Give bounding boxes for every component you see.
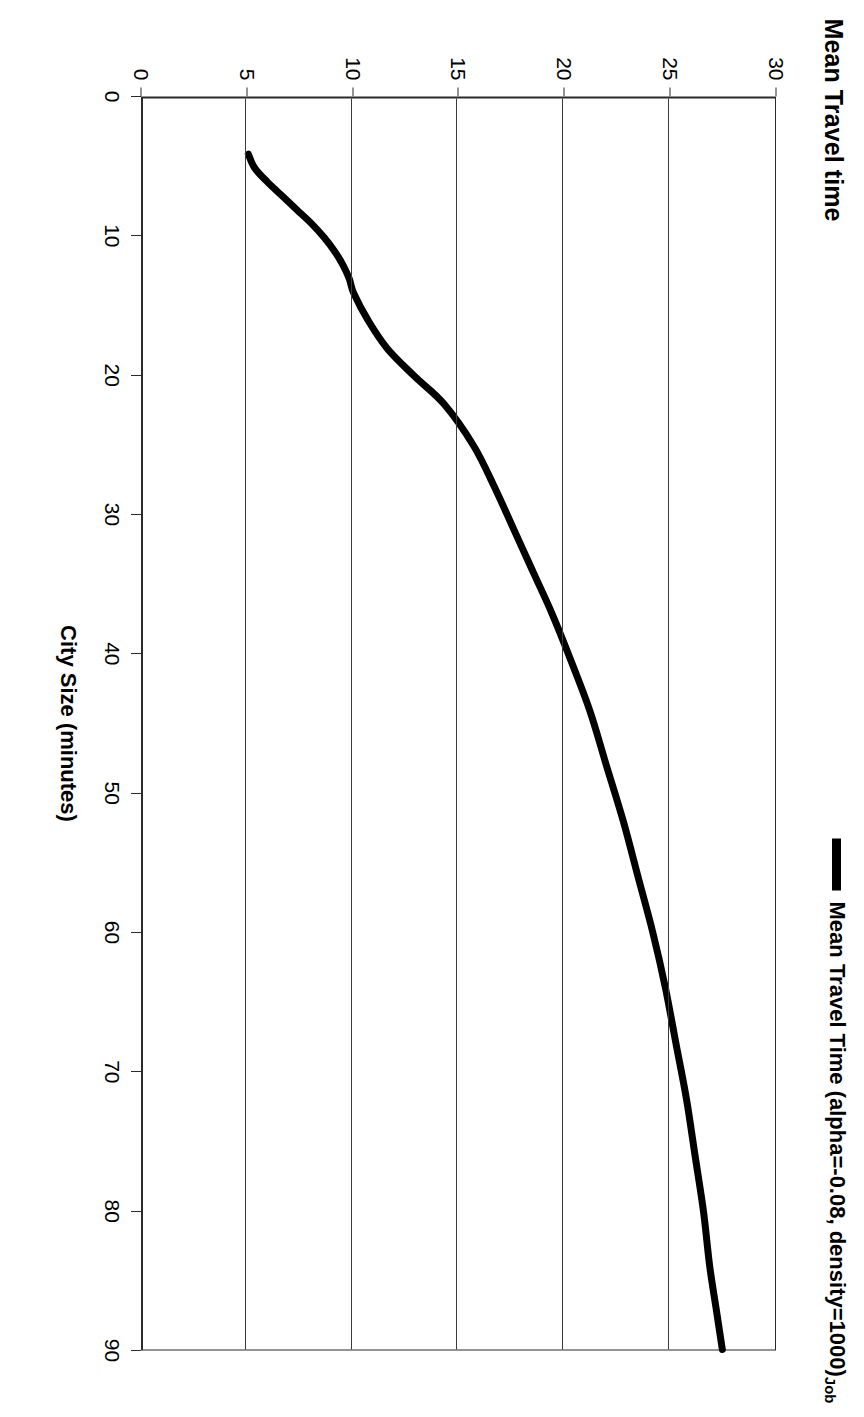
series-curve-layer	[143, 98, 775, 1349]
category-axis-tick-label: 70	[100, 1060, 124, 1083]
category-axis-tick-mark	[131, 374, 141, 375]
category-axis-tick-label: 90	[100, 1338, 124, 1361]
category-axis-tick-label: 30	[100, 502, 124, 525]
gridline	[351, 98, 352, 1349]
series-line-mean-travel-time	[248, 154, 722, 1349]
legend-line-swatch	[833, 838, 842, 890]
value-axis-tick-label: 20	[552, 57, 576, 80]
plot-area	[141, 96, 776, 1350]
value-axis-tick-label: 15	[447, 57, 471, 80]
value-axis-tick-mark	[564, 87, 565, 96]
value-axis-tick-mark	[458, 87, 459, 96]
category-axis-tick-mark	[131, 1071, 141, 1072]
value-axis-tick-label: 10	[341, 57, 365, 80]
category-axis: 0102030405060708090	[21, 96, 141, 1350]
category-axis-tick-mark	[131, 235, 141, 236]
legend-item-label: Mean Travel Time (alpha=-0.08, density=1…	[826, 901, 848, 1403]
gridline	[562, 98, 563, 1349]
value-axis-tick-label: 25	[658, 57, 682, 80]
category-axis-tick-mark	[131, 1350, 141, 1351]
value-axis-tick-mark	[141, 87, 142, 96]
value-axis-tick-mark	[670, 87, 671, 96]
category-axis-tick-label: 0	[100, 90, 124, 102]
value-axis-tick-label: 5	[235, 68, 259, 80]
legend-item-label-main: Mean Travel Time (alpha=-0.08, density=1…	[825, 901, 850, 1376]
category-axis-tick-label: 20	[100, 363, 124, 386]
category-axis-tick-mark	[131, 653, 141, 654]
category-axis-tick-label: 60	[100, 920, 124, 943]
value-axis-tick-mark	[776, 87, 777, 96]
category-axis-tick-mark	[131, 96, 141, 97]
category-axis-tick-mark	[131, 1210, 141, 1211]
category-axis-title: City Size (minutes)	[55, 96, 81, 1350]
category-axis-tick-label: 10	[100, 224, 124, 247]
value-axis-tick-label: 30	[764, 57, 788, 80]
value-axis: 051015202530	[141, 0, 776, 96]
category-axis-tick-mark	[131, 932, 141, 933]
value-axis-tick-mark	[352, 87, 353, 96]
chart-legend: Mean Travel Time (alpha=-0.08, density=1…	[826, 838, 848, 1403]
chart-stage: Mean Travel time Mean Travel Time (alpha…	[0, 0, 864, 1417]
category-axis-tick-label: 80	[100, 1199, 124, 1222]
gridline	[457, 98, 458, 1349]
gridline	[668, 98, 669, 1349]
category-axis-tick-mark	[131, 792, 141, 793]
category-axis-tick-label: 40	[100, 642, 124, 665]
category-axis-tick-mark	[131, 514, 141, 515]
gridline	[245, 98, 246, 1349]
category-axis-tick-label: 50	[100, 781, 124, 804]
legend-item-label-subscript: Job	[822, 1376, 839, 1403]
page-title: Mean Travel time	[819, 18, 848, 221]
value-axis-tick-mark	[246, 87, 247, 96]
value-axis-tick-label: 0	[129, 68, 153, 80]
